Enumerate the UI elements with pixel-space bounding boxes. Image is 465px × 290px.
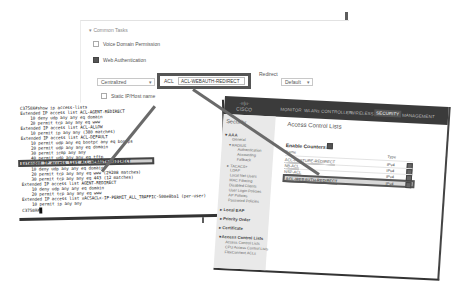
- nav-monitor[interactable]: MONITOR: [280, 107, 302, 113]
- acl-field-highlight: ACL ACL-WEBAUTH-REDIRECT: [157, 73, 251, 89]
- sidebar-item-local-eap[interactable]: ▸ Local EAP: [220, 207, 244, 213]
- nav-wireless[interactable]: WIRELESS: [350, 110, 374, 116]
- redirect-value: Default: [285, 79, 301, 85]
- static-ip-host-row[interactable]: Static IP/Host name: [101, 93, 155, 99]
- chevron-down-icon: ▾: [149, 79, 152, 85]
- page-title: Access Control Lists: [287, 121, 342, 130]
- web-authentication-checkbox[interactable]: [93, 57, 99, 63]
- nav-management[interactable]: MANAGEMENT: [402, 113, 435, 120]
- enable-counters-checkbox[interactable]: [327, 143, 333, 149]
- column-header-type[interactable]: Type: [387, 154, 396, 159]
- voice-domain-permission-label: Voice Domain Permission: [103, 41, 160, 47]
- terminal-line: 10 permit ip any any: [22, 201, 82, 207]
- cisco-logo: ·ıı|ıı· CISCO: [236, 100, 253, 113]
- acl-name-link[interactable]: NSP-ACL: [284, 169, 302, 175]
- nav-security[interactable]: SECURITY: [374, 109, 401, 117]
- sidebar-item-ldap[interactable]: LDAP: [230, 168, 240, 172]
- nav-wlans[interactable]: WLANs: [304, 108, 320, 114]
- sidebar-item-priority-order[interactable]: ▸ Priority Order: [220, 216, 251, 222]
- row-menu-icon[interactable]: [405, 182, 411, 188]
- web-authentication-row[interactable]: Web Authentication: [93, 57, 146, 63]
- acl-label: ACL: [160, 78, 178, 84]
- common-tasks-title: ▾ Common Tasks: [89, 27, 128, 33]
- sidebar-item-general[interactable]: General: [232, 137, 246, 142]
- sidebar-item-certificate[interactable]: ▸ Certificate: [219, 225, 243, 231]
- auth-mode-select[interactable]: Centralized ▾: [97, 78, 155, 86]
- auth-mode-value: Centralized: [101, 79, 126, 85]
- acl-type: IPv4: [385, 181, 393, 186]
- cisco-logo-text: CISCO: [236, 106, 252, 113]
- sidebar-item-password-policies[interactable]: Password Policies: [228, 198, 259, 203]
- terminal-output: C3750X#show ip access-lists Extended IP …: [17, 100, 226, 221]
- wlc-acl-window: ·ıı|ıı· CISCO MONITOR WLANs CONTROLLER W…: [213, 96, 450, 281]
- web-authentication-label: Web Authentication: [103, 57, 146, 63]
- cursor-icon: [40, 207, 43, 213]
- redirect-select[interactable]: Default ▾: [281, 78, 313, 86]
- terminal-prompt[interactable]: C3750X#: [22, 207, 43, 213]
- static-ip-host-checkbox[interactable]: [101, 93, 107, 99]
- voice-domain-permission-checkbox[interactable]: [93, 41, 99, 47]
- redirect-label: Redirect: [259, 71, 278, 77]
- chevron-down-icon: ▾: [307, 79, 310, 85]
- terminal-prompt-text: C3750X#: [22, 208, 40, 213]
- sidebar-item-fallback[interactable]: Fallback: [237, 158, 251, 163]
- acl-type: IPv4: [386, 174, 394, 179]
- voice-domain-permission-row[interactable]: Voice Domain Permission: [93, 41, 160, 47]
- nav-controller[interactable]: CONTROLLER: [321, 109, 352, 116]
- acl-input[interactable]: ACL-WEBAUTH-REDIRECT: [178, 77, 245, 85]
- sidebar-item-flexconnect-acls[interactable]: FlexConnect ACLs: [225, 250, 257, 256]
- static-ip-host-label: Static IP/Host name: [111, 93, 155, 99]
- row-menu-icon[interactable]: [406, 175, 412, 181]
